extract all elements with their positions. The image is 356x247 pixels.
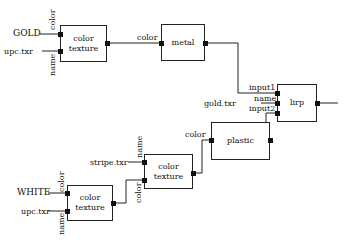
port-input2[interactable] [275, 111, 280, 116]
node-label: color [75, 193, 104, 203]
port-output[interactable] [203, 41, 208, 46]
input2-label: input2 [249, 104, 275, 113]
port-output[interactable] [268, 138, 273, 143]
node-label: texture [69, 44, 98, 54]
upc-txr-input-label: upc.txr [21, 207, 50, 216]
node-label: texture [154, 172, 183, 182]
stripe-txr-label: stripe.txr [90, 158, 128, 167]
node-label: color [154, 162, 183, 172]
port-output[interactable] [111, 201, 116, 206]
port-color[interactable] [159, 41, 164, 46]
color-port-label: color [57, 172, 66, 193]
metal-node[interactable]: metal [161, 24, 205, 61]
node-label: color [69, 34, 98, 44]
color-port-label: color [134, 183, 143, 204]
plastic-color-label: color [185, 130, 206, 139]
color-texture-node-gold[interactable]: colortexture [60, 25, 107, 62]
port-name[interactable] [58, 49, 63, 54]
port-color[interactable] [209, 138, 214, 143]
plastic-node[interactable]: plastic [211, 122, 270, 160]
color-port-label: color [48, 10, 57, 31]
node-label: metal [172, 38, 195, 48]
port-output[interactable] [315, 101, 320, 106]
color-texture-node-stripe[interactable]: colortexture [144, 154, 193, 189]
input1-label: input1 [249, 83, 275, 92]
color-texture-node-white[interactable]: colortexture [67, 185, 113, 221]
name-label: name [254, 94, 276, 103]
port-color[interactable] [58, 32, 63, 37]
port-name[interactable] [142, 160, 147, 165]
gold-txr-label: gold.txr [204, 99, 236, 108]
metal-color-label: color [137, 33, 158, 42]
gold-input-label: GOLD [13, 29, 41, 38]
name-port-label: name [57, 213, 66, 235]
node-label: lirp [290, 98, 304, 108]
name-port-label: name [135, 136, 144, 158]
upc-txr-input-label: upc.txr [4, 47, 33, 56]
port-output[interactable] [105, 41, 110, 46]
white-input-label: WHITE [17, 188, 50, 197]
name-port-label: name [48, 54, 57, 76]
node-label: texture [75, 203, 104, 213]
lirp-node[interactable]: lirp [277, 84, 317, 122]
node-label: plastic [227, 136, 254, 146]
port-output[interactable] [191, 171, 196, 176]
